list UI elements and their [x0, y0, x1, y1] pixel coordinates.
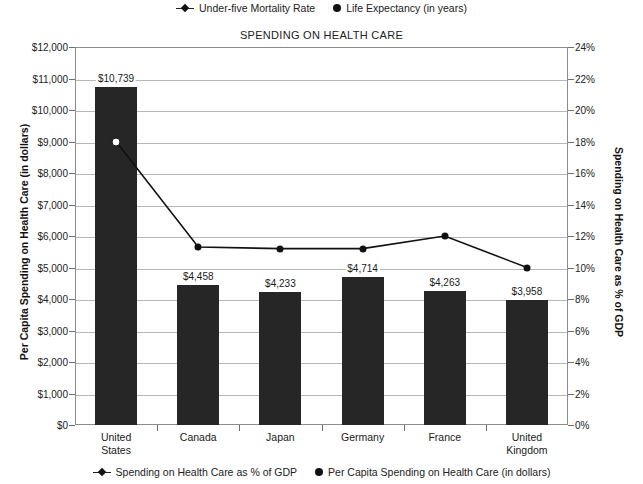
y-axis-left-tick-mark [69, 331, 75, 332]
y-axis-left-tick-label: $12,000 [6, 42, 68, 53]
gridline [76, 395, 567, 396]
y-axis-right-tick-mark [568, 47, 574, 48]
y-axis-right-tick-mark [568, 79, 574, 80]
y-axis-left-tick-label: $10,000 [6, 105, 68, 116]
x-axis-tick-mark [486, 425, 487, 431]
circle-marker-icon [315, 468, 323, 476]
legend-item-per-capita-spending: Per Capita Spending on Health Care (in d… [315, 466, 550, 478]
y-axis-right-tick-mark [568, 362, 574, 363]
y-axis-left-tick-mark [69, 79, 75, 80]
y-axis-right-tick-mark [568, 268, 574, 269]
x-axis-category-label: United Kingdom [506, 431, 547, 457]
y-axis-right-tick-mark [568, 299, 574, 300]
gridline [76, 80, 567, 81]
y-axis-right-tick-mark [568, 394, 574, 395]
x-axis-category-label: United States [101, 431, 131, 457]
gridline [76, 143, 567, 144]
y-axis-left-tick-mark [69, 394, 75, 395]
y-axis-left-tick-mark [69, 47, 75, 48]
y-axis-left-tick-label: $6,000 [6, 231, 68, 242]
y-axis-left-tick-label: $9,000 [6, 136, 68, 147]
y-axis-left-tick-label: $5,000 [6, 262, 68, 273]
gridline [76, 300, 567, 301]
y-axis-right-tick-label: 10% [575, 262, 615, 273]
y-axis-left-tick-mark [69, 299, 75, 300]
gridline [76, 332, 567, 333]
legend-top: Under-five Mortality Rate Life Expectanc… [0, 2, 643, 14]
y-axis-left-tick-mark [69, 173, 75, 174]
y-axis-right-tick-label: 12% [575, 231, 615, 242]
y-axis-left-tick-label: $0 [6, 420, 68, 431]
y-axis-right-title: Spending on Health Care as % of GDP [613, 92, 625, 392]
chart-title: SPENDING ON HEALTH CARE [0, 29, 643, 41]
gridline [76, 269, 567, 270]
y-axis-left-tick-label: $7,000 [6, 199, 68, 210]
chart-container: Under-five Mortality Rate Life Expectanc… [0, 0, 643, 484]
y-axis-left-tick-mark [69, 110, 75, 111]
gridline [76, 237, 567, 238]
legend-label: Per Capita Spending on Health Care (in d… [328, 466, 550, 478]
y-axis-left-tick-label: $3,000 [6, 325, 68, 336]
x-axis-category-label: Japan [266, 431, 295, 444]
line-marker-icon [93, 468, 111, 477]
y-axis-right-tick-label: 2% [575, 388, 615, 399]
legend-item-life-expectancy: Life Expectancy (in years) [333, 2, 467, 14]
y-axis-right-tick-label: 14% [575, 199, 615, 210]
legend-item-under-five-mortality-rate: Under-five Mortality Rate [176, 2, 315, 14]
y-axis-right-tick-label: 8% [575, 294, 615, 305]
y-axis-left-tick-mark [69, 236, 75, 237]
y-axis-left-tick-mark [69, 142, 75, 143]
y-axis-right-tick-mark [568, 142, 574, 143]
y-axis-right-tick-label: 22% [575, 73, 615, 84]
y-axis-right-tick-label: 6% [575, 325, 615, 336]
y-axis-right-tick-label: 20% [575, 105, 615, 116]
x-axis-tick-mark [157, 425, 158, 431]
legend-label: Under-five Mortality Rate [199, 2, 315, 14]
y-axis-left-tick-label: $11,000 [6, 73, 68, 84]
legend-item-spending-pct-gdp: Spending on Health Care as % of GDP [93, 466, 298, 478]
x-axis-category-label: Canada [180, 431, 217, 444]
y-axis-left-tick-label: $1,000 [6, 388, 68, 399]
gridline [76, 174, 567, 175]
legend-label: Spending on Health Care as % of GDP [116, 466, 298, 478]
line-marker-icon [176, 4, 194, 13]
y-axis-right-tick-mark [568, 236, 574, 237]
plot-area [75, 47, 568, 425]
gridline [76, 206, 567, 207]
circle-marker-icon [333, 4, 341, 12]
x-axis-tick-mark [322, 425, 323, 431]
x-axis-tick-mark [404, 425, 405, 431]
y-axis-right-tick-label: 4% [575, 357, 615, 368]
y-axis-right-tick-label: 18% [575, 136, 615, 147]
y-axis-left-tick-mark [69, 205, 75, 206]
legend-label: Life Expectancy (in years) [346, 2, 467, 14]
y-axis-right-tick-mark [568, 425, 574, 426]
gridline [76, 363, 567, 364]
gridline [76, 111, 567, 112]
y-axis-right-tick-mark [568, 205, 574, 206]
y-axis-right-tick-mark [568, 331, 574, 332]
y-axis-left-tick-mark [69, 268, 75, 269]
y-axis-left-title: Per Capita Spending on Health Care (in d… [18, 92, 30, 392]
y-axis-right-tick-label: 16% [575, 168, 615, 179]
y-axis-left-tick-mark [69, 362, 75, 363]
x-axis-tick-mark [239, 425, 240, 431]
x-axis-category-label: France [428, 431, 461, 444]
y-axis-left-tick-label: $8,000 [6, 168, 68, 179]
y-axis-right-tick-label: 0% [575, 420, 615, 431]
y-axis-right-tick-mark [568, 173, 574, 174]
y-axis-left-tick-label: $2,000 [6, 357, 68, 368]
legend-bottom: Spending on Health Care as % of GDP Per … [0, 466, 643, 478]
y-axis-left-tick-label: $4,000 [6, 294, 68, 305]
y-axis-left-tick-mark [69, 425, 75, 426]
y-axis-right-tick-label: 24% [575, 42, 615, 53]
x-axis-category-label: Germany [341, 431, 384, 444]
y-axis-right-tick-mark [568, 110, 574, 111]
